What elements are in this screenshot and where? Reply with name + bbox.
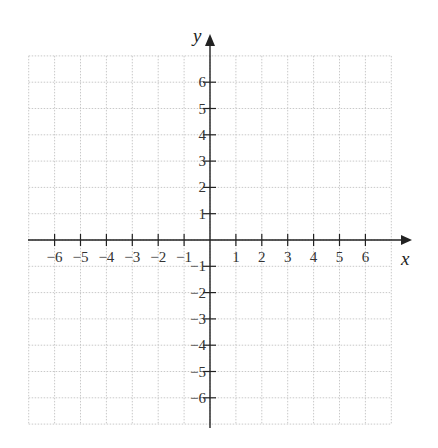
y-tick-label: 2 <box>199 179 207 195</box>
y-tick-label: −5 <box>190 364 206 380</box>
x-tick-label: −6 <box>47 249 63 265</box>
x-tick-label: 2 <box>258 249 266 265</box>
x-tick-label: 4 <box>310 249 318 265</box>
y-tick-label: 1 <box>199 206 207 222</box>
y-tick-label: −2 <box>190 285 206 301</box>
y-tick-label: 3 <box>199 153 207 169</box>
x-tick-label: −5 <box>73 249 89 265</box>
y-tick-label: −4 <box>190 337 206 353</box>
y-axis-arrow-icon <box>205 34 215 46</box>
x-tick-label: −3 <box>124 249 140 265</box>
x-axis-label: x <box>400 248 410 269</box>
coordinate-plane: −6−5−4−3−2−1123456 654321−1−2−3−4−5−6 x … <box>0 0 438 448</box>
x-tick-label: 3 <box>284 249 292 265</box>
y-tick-label: 6 <box>199 74 207 90</box>
y-tick-label: −3 <box>190 311 206 327</box>
y-tick-label: 5 <box>199 101 207 117</box>
x-tick-label: 1 <box>232 249 240 265</box>
y-axis-label: y <box>191 25 202 46</box>
x-ticks: −6−5−4−3−2−1123456 <box>47 234 370 265</box>
y-tick-label: 4 <box>199 127 207 143</box>
x-axis-arrow-icon <box>401 235 412 245</box>
y-tick-label: −6 <box>190 390 206 406</box>
x-tick-label: −2 <box>150 249 166 265</box>
x-tick-label: 6 <box>362 249 370 265</box>
x-tick-label: 5 <box>336 249 344 265</box>
y-tick-label: −1 <box>190 258 206 274</box>
x-tick-label: −4 <box>98 249 114 265</box>
